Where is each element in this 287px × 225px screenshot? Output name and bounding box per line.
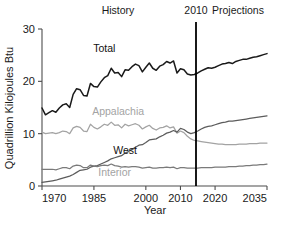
x-tick-label-2010: 2010	[168, 192, 192, 204]
series-inline-labels: TotalAppalachiaWestInterior	[92, 42, 144, 178]
y-axis-ticks	[38, 29, 42, 186]
series-label-interior: Interior	[98, 166, 131, 178]
series-line-west	[42, 116, 267, 182]
series-line-interior	[42, 164, 267, 170]
top-annotations: History 2010 Projections	[102, 4, 264, 16]
chart-svg: History 2010 Projections 0102030 1970198…	[0, 0, 287, 225]
series-label-total: Total	[93, 42, 115, 54]
y-axis-tick-labels: 0102030	[23, 23, 35, 192]
x-axis-tick-labels: 197019852000201020202035	[42, 192, 267, 204]
x-tick-label-1985: 1985	[82, 192, 106, 204]
energy-production-chart: History 2010 Projections 0102030 1970198…	[0, 0, 287, 225]
series-label-west: West	[113, 144, 137, 156]
series-lines	[42, 54, 267, 183]
series-label-appalachia: Appalachia	[92, 105, 144, 117]
divider-year-label: 2010	[184, 4, 208, 16]
y-tick-label-20: 20	[23, 75, 35, 87]
x-tick-label-2000: 2000	[134, 192, 158, 204]
series-line-total	[42, 54, 267, 115]
plot-axes	[38, 29, 267, 190]
y-tick-label-0: 0	[29, 180, 35, 192]
x-axis-ticks	[42, 186, 267, 190]
y-axis-title: Quadrillion Kilojoules Btu	[3, 47, 15, 169]
series-line-appalachia	[42, 122, 267, 145]
x-tick-label-2020: 2020	[203, 192, 227, 204]
x-tick-label-2035: 2035	[243, 192, 267, 204]
y-tick-label-10: 10	[23, 128, 35, 140]
x-tick-label-1970: 1970	[42, 192, 66, 204]
history-label: History	[102, 4, 135, 16]
projections-label: Projections	[212, 4, 264, 16]
y-tick-label-30: 30	[23, 23, 35, 35]
x-axis-title: Year	[144, 204, 167, 216]
